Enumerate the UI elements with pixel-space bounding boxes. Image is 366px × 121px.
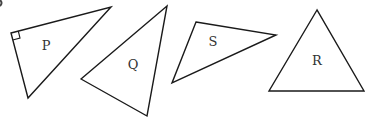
triangle-p-shape — [11, 7, 111, 98]
triangle-q: Q — [81, 6, 167, 116]
triangle-s-label: S — [209, 34, 218, 49]
triangles-diagram: P Q S R — [0, 0, 366, 121]
triangle-r: R — [269, 10, 364, 91]
triangle-s-shape — [172, 22, 276, 83]
triangle-s: S — [172, 22, 276, 83]
triangle-r-shape — [269, 10, 364, 91]
corner-fragment — [0, 0, 2, 6]
triangle-q-label: Q — [128, 57, 139, 72]
triangle-p: P — [11, 7, 111, 98]
triangle-p-label: P — [42, 38, 51, 53]
triangle-q-shape — [81, 6, 167, 116]
triangle-r-label: R — [312, 53, 323, 68]
